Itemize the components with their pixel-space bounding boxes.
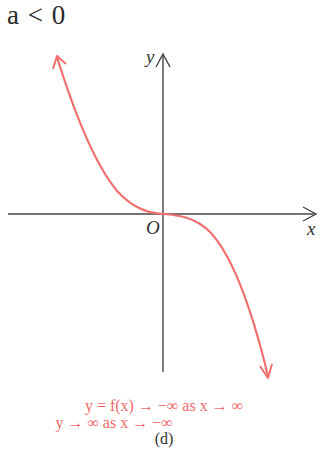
cubic-graph (0, 0, 328, 459)
x-axis-label: x (307, 218, 315, 240)
origin-label: O (146, 217, 160, 239)
figure-label: (d) (0, 430, 328, 448)
y-axis-label: y (146, 46, 154, 68)
